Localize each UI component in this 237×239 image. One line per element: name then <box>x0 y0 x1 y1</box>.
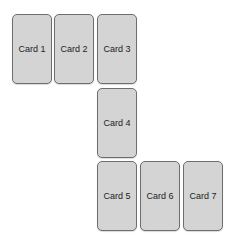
card-label: Card 4 <box>103 118 130 128</box>
card-3[interactable]: Card 3 <box>97 14 137 84</box>
card-1[interactable]: Card 1 <box>12 14 52 84</box>
card-label: Card 7 <box>189 191 216 201</box>
card-6[interactable]: Card 6 <box>140 161 180 231</box>
card-label: Card 2 <box>60 44 87 54</box>
card-2[interactable]: Card 2 <box>54 14 94 84</box>
card-5[interactable]: Card 5 <box>97 161 137 231</box>
card-label: Card 3 <box>103 44 130 54</box>
card-4[interactable]: Card 4 <box>97 88 137 158</box>
card-7[interactable]: Card 7 <box>183 161 223 231</box>
card-label: Card 1 <box>18 44 45 54</box>
card-label: Card 6 <box>146 191 173 201</box>
card-label: Card 5 <box>103 191 130 201</box>
